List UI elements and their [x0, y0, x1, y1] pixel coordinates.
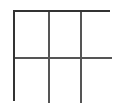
grid-cell-r1c3 [80, 12, 112, 57]
diagram-canvas [0, 0, 120, 108]
grid-cell-r2c1 [15, 57, 48, 103]
grid-cell-r1c2 [48, 12, 80, 57]
grid-cell-r1c1 [15, 12, 48, 57]
grid-cell-r2c2 [48, 57, 80, 103]
grid-cell-r2c3 [80, 57, 112, 103]
grid-table-outline [13, 10, 110, 101]
